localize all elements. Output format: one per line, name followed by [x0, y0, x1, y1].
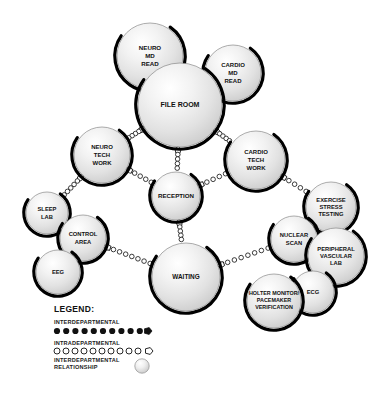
link-node-marker [239, 255, 244, 260]
legend-open-circle [54, 348, 60, 354]
legend-label-interdepartmental-relationship-line2: RELATIONSHIP [54, 364, 98, 370]
legend-filled-dot [63, 328, 69, 334]
link-waiting--nuclear-scan [216, 246, 270, 269]
legend-filled-dot [82, 328, 88, 334]
link-node-marker [259, 248, 264, 253]
node-cardio-tech-work[interactable]: CARDIOTECHWORK [225, 131, 287, 191]
link-node-marker [298, 186, 303, 191]
legend-open-circle [117, 348, 123, 354]
link-node-marker [175, 166, 180, 171]
link-node-marker [246, 253, 251, 258]
legend-filled-dot [137, 328, 143, 334]
link-node-marker [142, 259, 147, 264]
link-node-marker [176, 152, 181, 157]
link-node-marker [123, 252, 128, 257]
link-node-marker [211, 177, 216, 182]
legend-symbol-sphere [135, 359, 149, 373]
legend-open-circle [108, 348, 114, 354]
link-control-area--waiting [103, 243, 153, 266]
legend-filled-arrowhead [145, 328, 153, 335]
legend-filled-dot [128, 328, 134, 334]
legend-filled-dot [118, 328, 124, 334]
node-label: EEG [52, 269, 65, 275]
node-reception[interactable]: RECEPTION [150, 172, 202, 222]
link-node-marker [136, 257, 141, 262]
legend-title: LEGEND: [54, 304, 94, 314]
diagram-canvas: NEUROMDREADCARDIOMDREADFILE ROOMNEUROTEC… [0, 0, 388, 403]
department-relationship-diagram: NEUROMDREADCARDIOMDREADFILE ROOMNEUROTEC… [0, 0, 388, 403]
link-node-marker [132, 171, 137, 176]
legend-open-circle [63, 348, 69, 354]
legend-filled-dot [91, 328, 97, 334]
legend-open-circle [81, 348, 87, 354]
legend-open-circle [135, 348, 141, 354]
legend-filled-dot [72, 328, 78, 334]
link-node-marker [252, 251, 257, 256]
link-node-marker [111, 247, 116, 252]
nodes-layer: NEUROMDREADCARDIOMDREADFILE ROOMNEUROTEC… [24, 23, 366, 330]
link-node-marker [175, 157, 180, 162]
legend-label-intradepartmental: INTRADEPARTMENTAL [54, 340, 120, 346]
legend: LEGEND: INTERDEPARTMENTAL INTRADEPARTMEN… [54, 304, 153, 373]
legend-label-interdepartmental: INTERDEPARTMENTAL [54, 319, 120, 325]
node-eeg[interactable]: EEG [34, 250, 82, 296]
legend-symbol-filled-dots [54, 328, 152, 335]
legend-open-circle [90, 348, 96, 354]
legend-sphere-swatch [135, 359, 149, 373]
link-node-marker [179, 237, 184, 242]
legend-symbol-open-circles [54, 348, 153, 355]
link-node-marker [287, 178, 292, 183]
link-node-marker [232, 258, 237, 263]
node-label: EXERCISESTRESSTESTING [316, 196, 345, 217]
link-node-marker [117, 250, 122, 255]
legend-filled-dot [100, 328, 106, 334]
legend-open-circle [99, 348, 105, 354]
link-node-marker [130, 254, 135, 259]
legend-open-circle [126, 348, 132, 354]
node-label: ECG [307, 289, 320, 295]
legend-open-circle [72, 348, 78, 354]
link-node-marker [217, 174, 222, 179]
link-node-marker [205, 180, 210, 185]
node-label: NEUROTECHWORK [91, 144, 113, 165]
link-node-marker [138, 174, 143, 179]
link-node-marker [225, 260, 230, 265]
legend-filled-dot [109, 328, 115, 334]
node-waiting[interactable]: WAITING [150, 243, 222, 313]
link-node-marker [292, 182, 297, 187]
node-neuro-tech-work[interactable]: NEUROTECHWORK [72, 127, 132, 185]
legend-open-arrowhead [146, 348, 154, 355]
node-label: RECEPTION [158, 192, 195, 199]
link-node-marker [143, 177, 148, 182]
node-label: FILE ROOM [161, 101, 200, 108]
legend-filled-dot [54, 328, 60, 334]
node-label: WAITING [172, 273, 199, 280]
legend-label-interdepartmental-relationship-line1: INTERDEPARTMENTAL [54, 357, 120, 363]
link-node-marker [175, 161, 180, 166]
